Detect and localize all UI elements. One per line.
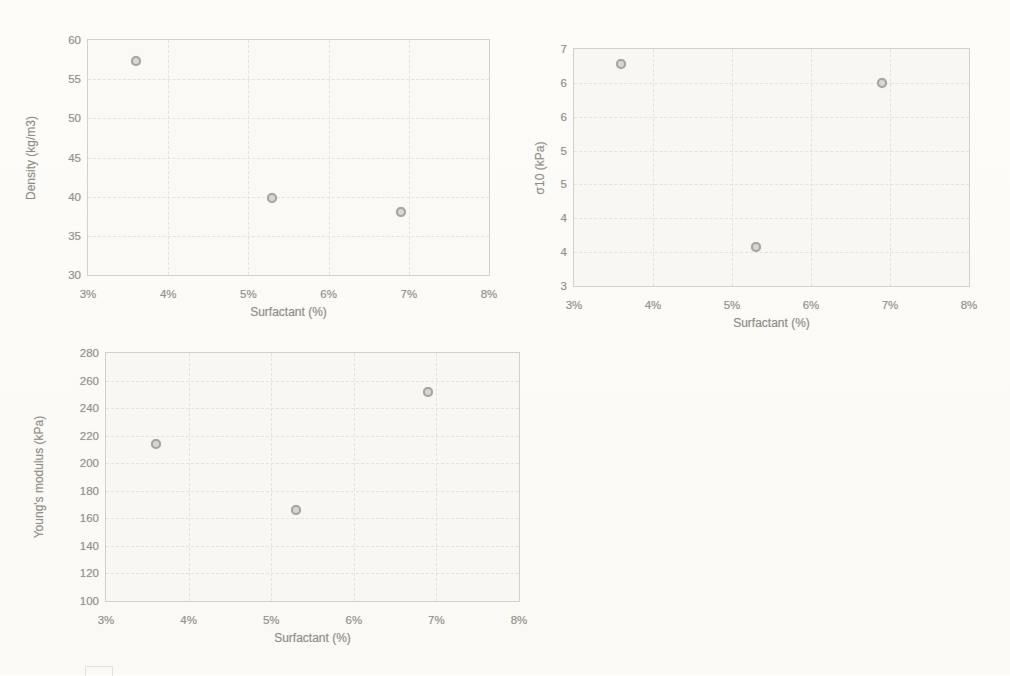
- scatter-point: [751, 242, 761, 252]
- horizontal-gridline: [106, 546, 519, 547]
- y-tick-label: 50: [68, 112, 81, 124]
- vertical-gridline: [329, 40, 330, 275]
- x-tick-label: 6%: [803, 299, 820, 311]
- scatter-point: [616, 59, 626, 69]
- y-tick-label: 40: [68, 191, 81, 203]
- x-tick-label: 7%: [882, 299, 899, 311]
- vertical-gridline: [248, 40, 249, 275]
- scatter-point: [423, 387, 433, 397]
- horizontal-gridline: [574, 117, 969, 118]
- y-tick-label: 120: [80, 567, 99, 579]
- vertical-gridline: [409, 40, 410, 275]
- scan-artifact-mark: [85, 666, 113, 676]
- y-tick-label: 45: [68, 152, 81, 164]
- vertical-gridline: [271, 353, 272, 601]
- horizontal-gridline: [88, 197, 489, 198]
- y-tick-label: 5: [561, 145, 567, 157]
- y-tick-label: 160: [80, 512, 99, 524]
- y-tick-label: 4: [561, 212, 567, 224]
- y-tick-label: 5: [561, 178, 567, 190]
- y-tick-label: 180: [80, 485, 99, 497]
- x-tick-label: 3%: [98, 614, 115, 626]
- vertical-gridline: [436, 353, 437, 601]
- y-tick-label: 60: [68, 34, 81, 46]
- y-tick-label: 240: [80, 402, 99, 414]
- density-x-axis-title: Surfactant (%): [250, 305, 327, 319]
- x-tick-label: 8%: [511, 614, 528, 626]
- x-tick-label: 3%: [566, 299, 583, 311]
- y-tick-label: 220: [80, 430, 99, 442]
- x-tick-label: 8%: [481, 288, 498, 300]
- scatter-point: [131, 56, 141, 66]
- y-tick-label: 30: [68, 269, 81, 281]
- x-tick-label: 5%: [724, 299, 741, 311]
- horizontal-gridline: [574, 151, 969, 152]
- horizontal-gridline: [574, 218, 969, 219]
- horizontal-gridline: [106, 491, 519, 492]
- y-tick-label: 200: [80, 457, 99, 469]
- vertical-gridline: [354, 353, 355, 601]
- density-y-axis-title: Density (kg/m3): [24, 115, 38, 199]
- vertical-gridline: [732, 49, 733, 286]
- horizontal-gridline: [574, 83, 969, 84]
- vertical-gridline: [811, 49, 812, 286]
- y-tick-label: 100: [80, 595, 99, 607]
- scatter-point: [396, 207, 406, 217]
- x-tick-label: 8%: [961, 299, 978, 311]
- sigma10-x-axis-title: Surfactant (%): [733, 316, 810, 330]
- y-tick-label: 7: [561, 43, 567, 55]
- scatter-point: [151, 439, 161, 449]
- vertical-gridline: [653, 49, 654, 286]
- vertical-gridline: [189, 353, 190, 601]
- x-tick-label: 7%: [400, 288, 417, 300]
- y-tick-label: 55: [68, 73, 81, 85]
- horizontal-gridline: [106, 381, 519, 382]
- horizontal-gridline: [574, 252, 969, 253]
- y-tick-label: 6: [561, 111, 567, 123]
- vertical-gridline: [168, 40, 169, 275]
- x-tick-label: 4%: [645, 299, 662, 311]
- horizontal-gridline: [106, 408, 519, 409]
- horizontal-gridline: [106, 463, 519, 464]
- x-tick-label: 4%: [180, 614, 197, 626]
- vertical-gridline: [890, 49, 891, 286]
- scatter-point: [291, 505, 301, 515]
- x-tick-label: 6%: [345, 614, 362, 626]
- x-tick-label: 4%: [160, 288, 177, 300]
- chart-sigma10-plot-area: σ10 (kPa) Surfactant (%) 766554433%4%5%6…: [573, 48, 970, 287]
- horizontal-gridline: [88, 118, 489, 119]
- sigma10-y-axis-title: σ10 (kPa): [533, 141, 547, 194]
- scatter-point: [267, 193, 277, 203]
- x-tick-label: 6%: [320, 288, 337, 300]
- y-tick-label: 35: [68, 230, 81, 242]
- youngs-modulus-x-axis-title: Surfactant (%): [274, 631, 351, 645]
- x-tick-label: 3%: [80, 288, 97, 300]
- chart-youngs-modulus-plot-area: Young's modulus (kPa) Surfactant (%) 280…: [105, 352, 520, 602]
- x-tick-label: 5%: [240, 288, 257, 300]
- horizontal-gridline: [88, 236, 489, 237]
- horizontal-gridline: [106, 573, 519, 574]
- y-tick-label: 3: [561, 280, 567, 292]
- horizontal-gridline: [106, 518, 519, 519]
- youngs-modulus-y-axis-title: Young's modulus (kPa): [32, 416, 46, 539]
- horizontal-gridline: [574, 184, 969, 185]
- x-tick-label: 7%: [428, 614, 445, 626]
- y-tick-label: 280: [80, 347, 99, 359]
- horizontal-gridline: [88, 158, 489, 159]
- horizontal-gridline: [106, 436, 519, 437]
- y-tick-label: 6: [561, 77, 567, 89]
- chart-density-plot-area: Density (kg/m3) Surfactant (%) 605550454…: [87, 39, 490, 276]
- y-tick-label: 4: [561, 246, 567, 258]
- scatter-point: [877, 78, 887, 88]
- y-tick-label: 260: [80, 375, 99, 387]
- horizontal-gridline: [88, 79, 489, 80]
- x-tick-label: 5%: [263, 614, 280, 626]
- y-tick-label: 140: [80, 540, 99, 552]
